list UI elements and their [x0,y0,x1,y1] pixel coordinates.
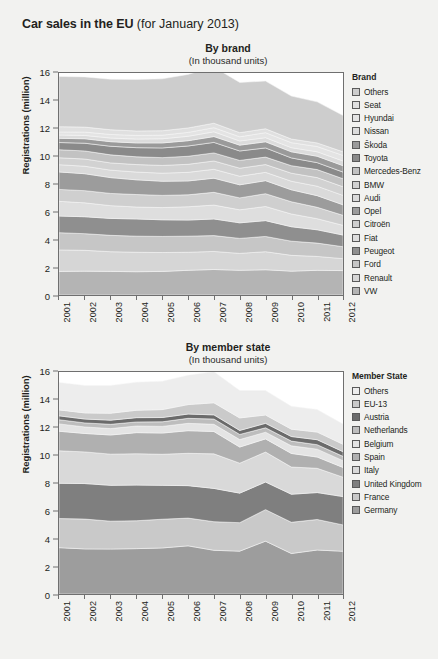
x-tick-label: 2003 [114,302,124,322]
legend-item[interactable]: Others [352,385,438,396]
legend-item[interactable]: Mercedes-Benz [352,166,438,177]
legend-item[interactable]: Toyota [352,152,438,163]
panel-title-state: By member state [0,341,438,353]
plot-area-brand [58,72,344,296]
legend-item[interactable]: Citroën [352,219,438,230]
legend-swatch-icon [352,127,360,135]
legend-swatch-icon [352,181,360,189]
legend-item-label: Belgium [364,439,393,449]
legend-item[interactable]: Spain [352,451,438,462]
y-tick-label: 0 [45,590,50,601]
legend-swatch-icon [352,220,360,228]
legend-swatch-icon [352,287,360,295]
legend-swatch-icon [352,480,360,488]
legend-item[interactable]: Nissan [352,126,438,137]
x-tick-mark [58,296,59,300]
legend-swatch-icon [352,413,360,421]
y-axis-ticks-state: 0246810121416 [0,371,58,595]
x-tick-mark [110,296,111,300]
x-tick-label: 2010 [296,302,306,322]
legend-swatch-icon [352,247,360,255]
legend-item[interactable]: Austria [352,412,438,423]
legend-brand: Brand OthersSeatHyundaiNissanŠkodaToyota… [352,72,438,299]
panel-by-brand: By brand (In thousand units) Registratio… [0,42,438,327]
legend-item[interactable]: Belgium [352,438,438,449]
y-tick-label: 4 [45,235,50,246]
legend-item-label: Nissan [364,126,389,136]
legend-swatch-icon [352,426,360,434]
legend-item-label: Netherlands [364,425,408,435]
legend-item-label: Peugeot [364,246,394,256]
legend-item-label: Ford [364,259,381,269]
legend-swatch-icon [352,387,360,395]
x-tick-label: 2007 [218,601,228,621]
x-tick-mark [240,595,241,599]
x-tick-label: 2012 [347,601,357,621]
legend-item[interactable]: Opel [352,206,438,217]
stacked-area-svg-brand [59,73,343,295]
legend-swatch-icon [352,101,360,109]
x-axis-ticks-brand: 2001200220032004200520062007200820092010… [58,296,344,342]
legend-swatch-icon [352,493,360,501]
x-tick-mark [214,296,215,300]
legend-item-label: VW [364,286,377,296]
legend-item-label: United Kingdom [364,479,422,489]
x-tick-mark [292,595,293,599]
legend-item[interactable]: Italy [352,465,438,476]
legend-item[interactable]: Škoda [352,139,438,150]
x-tick-mark [266,296,267,300]
panel-subtitle-state: (In thousand units) [0,354,438,365]
chart-brand: Registrations (million) 0246810121416 20… [0,72,438,327]
legend-item[interactable]: Seat [352,99,438,110]
legend-swatch-icon [352,207,360,215]
legend-swatch-icon [352,274,360,282]
legend-item[interactable]: EU-13 [352,398,438,409]
x-tick-label: 2008 [244,302,254,322]
legend-item-label: BMW [364,180,384,190]
x-tick-mark [188,595,189,599]
legend-item-label: EU-13 [364,399,387,409]
plot-frame-state [58,371,344,595]
legend-state: Member State OthersEU-13AustriaNetherlan… [352,371,438,518]
legend-item-label: Fiat [364,233,377,243]
y-tick-label: 6 [45,207,50,218]
panel-subtitle-brand: (In thousand units) [0,55,438,66]
page-root: Car sales in the EU (for January 2013) B… [0,0,438,659]
legend-item[interactable]: Fiat [352,232,438,243]
legend-item-label: Spain [364,452,385,462]
legend-item-label: Hyundai [364,113,394,123]
x-tick-mark [318,296,319,300]
legend-item-label: Škoda [364,140,387,150]
x-tick-label: 2003 [114,601,124,621]
x-tick-label: 2012 [347,302,357,322]
legend-item-label: Austria [364,412,389,422]
legend-item[interactable]: Germany [352,505,438,516]
legend-item-label: Seat [364,100,381,110]
legend-swatch-icon [352,88,360,96]
x-tick-mark [214,595,215,599]
legend-item[interactable]: Peugeot [352,246,438,257]
legend-item[interactable]: Others [352,86,438,97]
panel-title-brand: By brand [0,42,438,54]
y-tick-label: 12 [39,422,50,433]
legend-item[interactable]: VW [352,285,438,296]
legend-item-label: Mercedes-Benz [364,166,421,176]
x-tick-mark [162,595,163,599]
y-tick-label: 10 [39,450,50,461]
chart-state: Registrations (million) 0246810121416 20… [0,371,438,626]
panel-by-member-state: By member state (In thousand units) Regi… [0,341,438,626]
legend-item[interactable]: BMW [352,179,438,190]
y-tick-label: 2 [45,263,50,274]
legend-item[interactable]: Audi [352,192,438,203]
x-tick-mark [343,595,344,599]
legend-item[interactable]: Ford [352,259,438,270]
legend-item[interactable]: Netherlands [352,425,438,436]
legend-item[interactable]: Hyundai [352,113,438,124]
x-tick-mark [58,595,59,599]
x-tick-label: 2002 [88,302,98,322]
legend-item[interactable]: France [352,491,438,502]
legend-item[interactable]: Renault [352,272,438,283]
y-tick-label: 2 [45,562,50,573]
legend-item[interactable]: United Kingdom [352,478,438,489]
page-title-light: (for January 2013) [133,17,239,31]
